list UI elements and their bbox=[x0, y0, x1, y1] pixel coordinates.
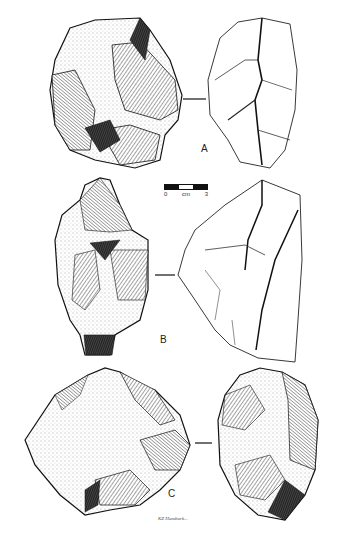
artifact-c-dorsal bbox=[25, 368, 190, 515]
artifact-a-dorsal bbox=[50, 18, 182, 168]
artifact-b-dorsal bbox=[55, 178, 148, 355]
artifact-b-profile bbox=[178, 180, 302, 362]
scale-unit: cm bbox=[182, 191, 190, 197]
artifact-plate: A B C bbox=[0, 0, 342, 535]
artifact-drawings: A B C bbox=[0, 0, 342, 535]
scale-bar-ticks: 0 cm 3 bbox=[164, 191, 208, 197]
artifact-c-profile bbox=[218, 368, 318, 520]
scale-bar-graphic bbox=[164, 184, 208, 190]
scale-bar: 0 cm 3 bbox=[164, 184, 208, 197]
artifact-c-label: C bbox=[168, 488, 175, 499]
artifact-a-label: A bbox=[201, 143, 208, 154]
scale-end: 3 bbox=[205, 191, 208, 197]
scale-start: 0 bbox=[164, 191, 167, 197]
artifact-a-profile bbox=[208, 18, 297, 168]
artifact-b-label: B bbox=[160, 334, 167, 345]
illustrator-signature: KZ Hamburk... bbox=[158, 516, 188, 521]
